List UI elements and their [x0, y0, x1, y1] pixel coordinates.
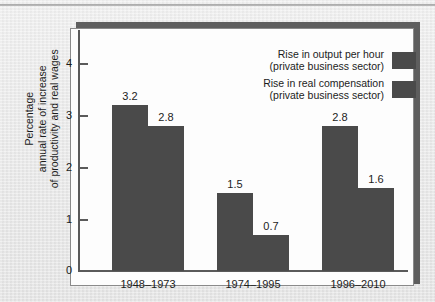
bar-1948-1973-compensation[interactable] — [148, 126, 184, 271]
y-tick-label-0: 0 — [44, 265, 72, 276]
y-tick-1 — [80, 219, 88, 221]
y-axis-title-line-2: annual rate of increase — [36, 19, 49, 219]
legend-label-real-compensation-line-1: Rise in real compensation — [263, 77, 384, 89]
y-tick-2 — [80, 167, 88, 169]
bar-value-1996-2010-output: 2.8 — [320, 112, 360, 123]
x-tick-label-1948-1973: 1948–1973 — [93, 278, 203, 290]
y-axis-title: Percentage annual rate of increase of pr… — [23, 19, 61, 219]
bar-1974-1995-output[interactable] — [217, 193, 253, 271]
legend-label-output-per-hour-line-1: Rise in output per hour — [270, 48, 384, 60]
x-tick-label-1974-1995: 1974–1995 — [198, 278, 308, 290]
y-axis-line — [78, 30, 80, 271]
legend-item-output-per-hour[interactable]: Rise in output per hour (private busines… — [244, 48, 416, 72]
plot-area: 4 3 2 1 0 Percentage annual rate of incr… — [8, 14, 420, 292]
x-tick-label-1996-2010: 1996–2010 — [303, 278, 413, 290]
top-horizontal-rule — [0, 4, 435, 6]
y-tick-4 — [80, 63, 88, 65]
y-axis-title-line-1: Percentage — [23, 19, 36, 219]
legend-label-real-compensation: Rise in real compensation (private busin… — [263, 77, 392, 101]
bar-value-1948-1973-compensation: 2.8 — [146, 112, 186, 123]
legend-label-real-compensation-line-2: (private business sector) — [263, 89, 384, 101]
legend-swatch-real-compensation — [392, 81, 416, 98]
y-axis-title-line-3: of productivity and real wages — [48, 19, 61, 219]
y-tick-3 — [80, 115, 88, 117]
chart-legend: Rise in output per hour (private busines… — [244, 48, 416, 106]
bar-1996-2010-output[interactable] — [322, 126, 358, 271]
bar-1974-1995-compensation[interactable] — [253, 235, 289, 271]
legend-label-output-per-hour-line-2: (private business sector) — [270, 60, 384, 72]
legend-label-output-per-hour: Rise in output per hour (private busines… — [270, 48, 392, 72]
bar-value-1948-1973-output: 3.2 — [110, 91, 150, 102]
bar-1948-1973-output[interactable] — [112, 105, 148, 271]
legend-item-real-compensation[interactable]: Rise in real compensation (private busin… — [244, 77, 416, 101]
bar-1996-2010-compensation[interactable] — [358, 188, 394, 271]
bar-value-1974-1995-output: 1.5 — [215, 179, 255, 190]
bar-value-1974-1995-compensation: 0.7 — [251, 221, 291, 232]
bar-value-1996-2010-compensation: 1.6 — [356, 174, 396, 185]
bar-chart-figure: 4 3 2 1 0 Percentage annual rate of incr… — [8, 14, 420, 292]
legend-swatch-output-per-hour — [392, 52, 416, 69]
